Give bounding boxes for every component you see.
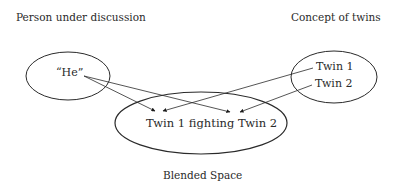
arrow-twin1-to-blend bbox=[163, 68, 313, 111]
he-element: “He” bbox=[56, 67, 83, 78]
arrow-he-to-twin2 bbox=[84, 76, 230, 112]
conceptual-blending-diagram: Person under discussion Concept of twins… bbox=[0, 0, 396, 185]
twins-space-heading: Concept of twins bbox=[291, 12, 381, 23]
twin1-element: Twin 1 bbox=[316, 61, 353, 72]
arrow-he-to-twin1 bbox=[84, 76, 155, 111]
twin2-element: Twin 2 bbox=[315, 78, 352, 89]
person-space-heading: Person under discussion bbox=[16, 12, 146, 23]
diagram-shapes bbox=[0, 0, 396, 185]
blended-space-caption: Blended Space bbox=[163, 170, 242, 181]
blend-content: Twin 1 fighting Twin 2 bbox=[146, 118, 277, 130]
